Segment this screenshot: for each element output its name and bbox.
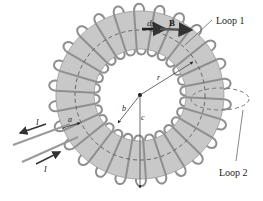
winding-loop: [136, 179, 146, 187]
lead-wire-out: [13, 124, 70, 145]
b-label: B: [169, 18, 175, 28]
loop-2-leader: [236, 110, 243, 161]
r-label: r: [157, 73, 161, 82]
c-label: c: [141, 113, 145, 122]
winding-loop: [134, 4, 144, 12]
winding-loop: [134, 136, 143, 141]
loop-1-label: Loop 1: [216, 15, 245, 26]
toroid-diagram: Loop 1 Loop 2 ds B r b c a I I: [0, 0, 263, 201]
winding-loop: [137, 49, 146, 54]
b-radius-label: b: [122, 104, 126, 113]
current-out-arrow: [20, 124, 46, 133]
current-out-label: I: [35, 118, 39, 127]
ds-label: ds: [147, 18, 156, 28]
a-label: a: [68, 115, 72, 124]
current-in-label: I: [43, 165, 47, 174]
loop-2-label: Loop 2: [219, 167, 248, 178]
b-field-arrow: [160, 29, 191, 30]
